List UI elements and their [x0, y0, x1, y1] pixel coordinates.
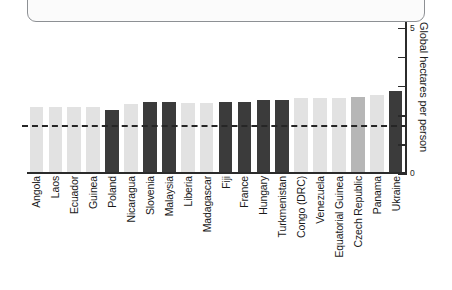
bar-slot [46, 22, 65, 173]
category-label-congo-drc: Congo (DRC) [295, 176, 307, 238]
top-info-panel [27, 0, 425, 22]
reference-line-dashed [22, 125, 407, 127]
category-label-ecuador: Ecuador [68, 176, 80, 214]
category-label-nicaragua: Nicaragua [125, 176, 137, 223]
bar-malaysia[interactable] [162, 102, 176, 173]
bar-slot [273, 22, 292, 173]
category-label-laos: Laos [49, 176, 61, 198]
category-slot: Madagascar [197, 176, 216, 288]
y-axis-spine [405, 22, 407, 173]
category-slot: Guinea [84, 176, 103, 288]
category-label-angola: Angola [30, 176, 42, 208]
category-slot: Angola [27, 176, 46, 288]
bar-slot [216, 22, 235, 173]
category-label-venezuela: Venezuela [314, 176, 326, 224]
y-tick-2 [398, 115, 407, 117]
category-slot: Slovenia [140, 176, 159, 288]
bar-slot [122, 22, 141, 173]
category-label-france: France [238, 176, 250, 208]
y-tick-0 [398, 173, 407, 175]
category-slot: Equatorial Guinea [330, 176, 349, 288]
bar-slot [65, 22, 84, 173]
bar-fiji[interactable] [219, 102, 233, 173]
bar-slot [254, 22, 273, 173]
category-slot: Poland [103, 176, 122, 288]
bar-france[interactable] [238, 102, 252, 173]
category-slot: Laos [46, 176, 65, 288]
bar-slot [84, 22, 103, 173]
bar-slot [348, 22, 367, 173]
category-slot: Malaysia [159, 176, 178, 288]
y-axis-title: Global hectares per person [418, 22, 430, 172]
bar-slot [367, 22, 386, 173]
y-tick-5 [398, 28, 407, 30]
bar-poland[interactable] [105, 110, 119, 173]
bar-slot [386, 22, 405, 173]
bar-angola[interactable] [30, 107, 44, 173]
bar-madagascar[interactable] [200, 103, 214, 173]
bar-ukraine[interactable] [389, 91, 403, 173]
bar-guinea[interactable] [86, 107, 100, 173]
y-tick-1 [398, 144, 407, 146]
bar-hungary[interactable] [257, 100, 271, 173]
bar-slot [178, 22, 197, 173]
y-tick-4 [398, 57, 407, 59]
x-axis-baseline [27, 172, 406, 174]
bar-equatorial-guinea[interactable] [332, 98, 346, 174]
bar-slot [311, 22, 330, 173]
y-tick-label-0: 0 [410, 169, 415, 178]
category-slot: Congo (DRC) [292, 176, 311, 288]
category-label-equatorial-guinea: Equatorial Guinea [333, 176, 345, 258]
bar-ecuador[interactable] [67, 107, 81, 173]
category-slot: Nicaragua [122, 176, 141, 288]
category-slot: Ukraine [386, 176, 405, 288]
category-label-ukraine: Ukraine [390, 176, 402, 211]
bar-slot [292, 22, 311, 173]
bar-slot [27, 22, 46, 173]
category-label-madagascar: Madagascar [201, 176, 213, 232]
bar-slot [197, 22, 216, 173]
bar-czech-republic[interactable] [351, 97, 365, 173]
category-slot: Liberia [178, 176, 197, 288]
y-tick-label-5: 5 [410, 24, 415, 33]
y-tick-3 [398, 86, 407, 88]
bar-liberia[interactable] [181, 103, 195, 173]
category-slot: Turkmenistan [273, 176, 292, 288]
category-slot: Ecuador [65, 176, 84, 288]
bar-series [27, 22, 405, 173]
x-axis-category-labels: AngolaLaosEcuadorGuineaPolandNicaraguaSl… [27, 176, 405, 288]
bar-panama[interactable] [370, 95, 384, 173]
category-label-liberia: Liberia [182, 176, 194, 206]
category-label-malaysia: Malaysia [163, 176, 175, 216]
plot-area [27, 22, 405, 173]
category-label-hungary: Hungary [257, 176, 269, 215]
category-slot: Venezuela [311, 176, 330, 288]
category-label-guinea: Guinea [87, 176, 99, 209]
category-label-turkmenistan: Turkmenistan [276, 176, 288, 237]
bar-turkmenistan[interactable] [275, 100, 289, 173]
category-label-panama: Panama [371, 176, 383, 214]
category-label-poland: Poland [106, 176, 118, 208]
bar-laos[interactable] [49, 107, 63, 173]
bar-slot [235, 22, 254, 173]
category-slot: France [235, 176, 254, 288]
category-slot: Panama [367, 176, 386, 288]
bar-slot [103, 22, 122, 173]
category-label-slovenia: Slovenia [144, 176, 156, 215]
category-label-czech-republic: Czech Republic [352, 176, 364, 247]
category-label-fiji: Fiji [220, 176, 232, 189]
bar-nicaragua[interactable] [124, 104, 138, 173]
category-slot: Fiji [216, 176, 235, 288]
chart-root: 05 Global hectares per person AngolaLaos… [0, 0, 452, 290]
bar-slovenia[interactable] [143, 102, 157, 173]
category-slot: Czech Republic [348, 176, 367, 288]
bar-slot [159, 22, 178, 173]
bar-slot [330, 22, 349, 173]
bar-venezuela[interactable] [313, 98, 327, 173]
category-slot: Hungary [254, 176, 273, 288]
bar-slot [140, 22, 159, 173]
bar-congo-drc[interactable] [294, 98, 308, 173]
